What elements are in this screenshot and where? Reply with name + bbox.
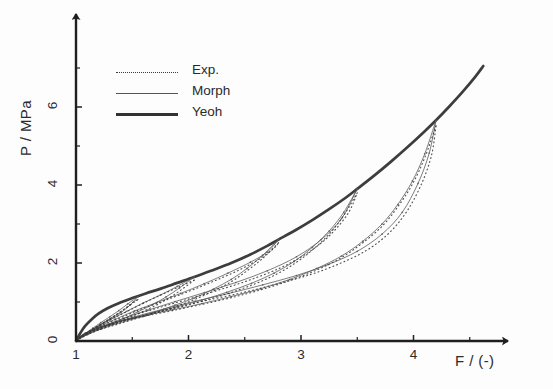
series-marker: [137, 296, 139, 298]
chart-figure: P / MPa F / (-) 02461234 Exp. Morph Yeoh: [0, 0, 553, 389]
x-tick-label: 1: [62, 347, 90, 362]
series-marker: [203, 292, 205, 294]
legend-label-exp: Exp.: [192, 62, 219, 77]
series-marker: [316, 268, 318, 270]
y-tick-label: 6: [45, 94, 60, 118]
series-marker: [266, 270, 268, 272]
series-marker: [381, 233, 383, 235]
series-marker: [180, 293, 182, 295]
series-marker: [435, 119, 437, 121]
legend-swatch-dotted-icon: [116, 72, 178, 73]
legend-item-yeoh: Yeoh: [116, 104, 266, 125]
series-marker: [193, 276, 195, 278]
series-marker: [251, 282, 253, 284]
series-marker: [362, 240, 364, 242]
x-tick-label: 2: [175, 347, 203, 362]
series-marker: [412, 180, 414, 182]
x-axis-title: F / (-): [455, 352, 494, 369]
legend-swatch-thin-line-icon: [116, 93, 178, 94]
series-marker: [428, 152, 430, 154]
series-marker: [230, 279, 232, 281]
series-marker: [262, 254, 264, 256]
series-marker: [109, 316, 111, 318]
y-tick-label: 2: [45, 250, 60, 274]
series-marker: [289, 279, 291, 281]
series-marker: [226, 291, 228, 293]
series-marker: [417, 183, 419, 185]
y-tick-label: 4: [45, 172, 60, 196]
series-marker: [227, 272, 229, 274]
series-path-exp-loop-5: [76, 126, 436, 341]
legend-swatch-thick-line-icon: [116, 113, 178, 116]
series-marker: [381, 223, 383, 225]
series-marker: [273, 272, 275, 274]
chart-legend: Exp. Morph Yeoh: [116, 62, 266, 125]
plot-canvas: [0, 0, 553, 389]
y-tick-label: 0: [45, 328, 60, 352]
series-marker: [250, 261, 252, 263]
legend-item-exp: Exp.: [116, 62, 266, 83]
series-marker: [296, 256, 298, 258]
x-tick-label: 4: [400, 347, 428, 362]
series-marker: [278, 239, 280, 241]
legend-label-morph: Morph: [192, 83, 230, 98]
series-marker: [165, 296, 167, 298]
series-marker: [246, 268, 248, 270]
legend-label-yeoh: Yeoh: [192, 104, 222, 119]
x-tick-label: 3: [287, 347, 315, 362]
series-marker: [341, 255, 343, 257]
series-path-morph-loop-5: [76, 120, 436, 340]
series-path-morph-loop-5: [76, 120, 436, 340]
series-marker: [174, 301, 176, 303]
y-axis-title: P / MPa: [17, 100, 34, 156]
series-marker: [194, 300, 196, 302]
series-marker: [320, 239, 322, 241]
series-marker: [100, 322, 102, 324]
series-marker: [126, 311, 128, 313]
series-marker: [262, 284, 264, 286]
series-marker: [311, 247, 313, 249]
series-marker: [127, 303, 129, 305]
series-marker: [424, 153, 426, 155]
series-marker: [163, 308, 165, 310]
series-marker: [193, 297, 195, 299]
legend-item-morph: Morph: [116, 83, 266, 104]
series-marker: [176, 286, 178, 288]
series-marker: [401, 211, 403, 213]
series-marker: [201, 303, 203, 305]
series-marker: [118, 310, 120, 312]
series-marker: [203, 283, 205, 285]
series-marker: [328, 230, 330, 232]
series-marker: [343, 211, 345, 213]
series-marker: [356, 188, 358, 190]
series-marker: [266, 251, 268, 253]
series-marker: [147, 309, 149, 311]
series-marker: [296, 275, 298, 277]
series-marker: [235, 282, 237, 284]
series-marker: [356, 250, 358, 252]
series-path-exp-loop-5: [76, 126, 436, 341]
